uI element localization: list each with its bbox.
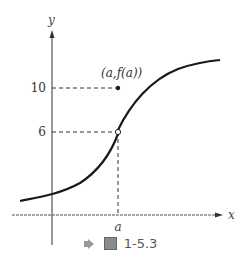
figure-icon [104,237,117,250]
y-axis-label: y [47,13,55,27]
chart-figure: y x 10 6 a (a,f(a)) [0,0,245,271]
arrow-icon [88,239,94,249]
figure-caption: 1-5.3 [0,236,245,251]
tick-label-a: a [114,220,121,234]
caption-text: 1-5.3 [124,236,158,251]
filled-point [116,86,120,90]
x-axis-label: x [228,208,235,222]
x-axis-arrow-icon [215,213,223,218]
y-axis-arrow-icon [50,30,55,38]
point-annotation: (a,f(a)) [101,66,143,80]
tick-label-6: 6 [38,125,46,139]
open-point [115,129,120,134]
tick-label-10: 10 [31,81,46,95]
